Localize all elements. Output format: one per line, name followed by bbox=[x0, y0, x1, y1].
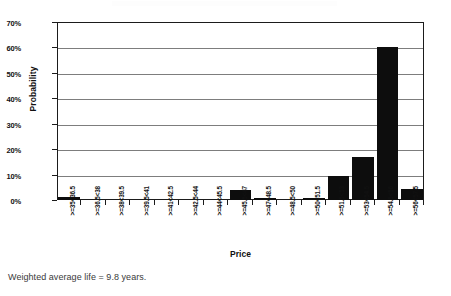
x-tick-label: >=35<36.5 bbox=[69, 184, 76, 228]
x-tick-label-cell: >=36.5<38 bbox=[81, 206, 105, 250]
x-tick-label-cell: >=56<57.5 bbox=[400, 206, 424, 250]
y-tick-label-40: 40% bbox=[0, 95, 21, 104]
x-tick-label-cell: >=39.5<41 bbox=[130, 206, 154, 250]
bar-slot bbox=[155, 22, 179, 200]
y-tick-label-0: 0% bbox=[0, 197, 21, 206]
y-tick-label-50: 50% bbox=[0, 70, 21, 79]
x-tick-label-cell: >=48.5<50 bbox=[277, 206, 301, 250]
y-tick-label-70: 70% bbox=[0, 19, 21, 28]
x-tick-label-cell: >=51.5<53 bbox=[326, 206, 350, 250]
x-tick-label-cell: >=42.5<44 bbox=[179, 206, 203, 250]
probability-distribution-figure: Probability 70% 60% 50% 40% 30% 20% 10% … bbox=[0, 0, 451, 296]
bar-slot bbox=[277, 22, 301, 200]
x-tick-label-cell: >=41<42.5 bbox=[155, 206, 179, 250]
bar-series bbox=[57, 22, 424, 200]
bar bbox=[377, 47, 399, 200]
x-axis-title: Price bbox=[57, 249, 424, 259]
x-tick-label-cell: >=38<39.5 bbox=[106, 206, 130, 250]
y-tick-label-10: 10% bbox=[0, 172, 21, 181]
bar-slot bbox=[130, 22, 154, 200]
x-tick-label-cell: >=50<51.5 bbox=[302, 206, 326, 250]
x-tick-label-cell: >=47<48.5 bbox=[253, 206, 277, 250]
x-tick-label: >=41<42.5 bbox=[167, 184, 174, 228]
x-tick-label-cell: >=54.5<56 bbox=[375, 206, 399, 250]
bar-slot bbox=[400, 22, 424, 200]
y-axis-title: Probability bbox=[28, 29, 38, 149]
x-tick-label: >=47<48.5 bbox=[265, 184, 272, 228]
bar-slot bbox=[204, 22, 228, 200]
page-edge-artifact bbox=[112, 1, 337, 6]
x-axis-labels: >=35<36.5>=36.5<38>=38<39.5>=39.5<41>=41… bbox=[57, 206, 424, 250]
bar-slot bbox=[302, 22, 326, 200]
bar-slot bbox=[326, 22, 350, 200]
x-tick-label: >=53<54.5 bbox=[363, 184, 370, 228]
x-tick-label: >=44<45.5 bbox=[216, 184, 223, 228]
x-tick-label: >=38<39.5 bbox=[118, 184, 125, 228]
x-tick-label: >=51.5<53 bbox=[338, 184, 345, 228]
x-tick-label: >=36.5<38 bbox=[94, 184, 101, 228]
x-tick-label-cell: >=44<45.5 bbox=[204, 206, 228, 250]
bar-slot bbox=[81, 22, 105, 200]
bar-slot bbox=[228, 22, 252, 200]
x-tick-label-cell: >=45.5<47 bbox=[228, 206, 252, 250]
x-tick-label: >=45.5<47 bbox=[241, 184, 248, 228]
x-tick-label-cell: >=53<54.5 bbox=[351, 206, 375, 250]
x-tick-label: >=42.5<44 bbox=[192, 184, 199, 228]
x-tick-label-cell: >=35<36.5 bbox=[57, 206, 81, 250]
figure-caption: Weighted average life = 9.8 years. bbox=[8, 272, 146, 282]
y-tick-label-30: 30% bbox=[0, 121, 21, 130]
x-tick-label: >=50<51.5 bbox=[314, 184, 321, 228]
x-tick-label: >=54.5<56 bbox=[387, 184, 394, 228]
bar-slot bbox=[57, 22, 81, 200]
bar-slot bbox=[179, 22, 203, 200]
bar-slot bbox=[253, 22, 277, 200]
bar-slot bbox=[106, 22, 130, 200]
x-tick-label: >=48.5<50 bbox=[289, 184, 296, 228]
y-tick-label-20: 20% bbox=[0, 146, 21, 155]
bar-slot bbox=[375, 22, 399, 200]
y-tick-label-60: 60% bbox=[0, 44, 21, 53]
x-tick-label: >=39.5<41 bbox=[143, 184, 150, 228]
x-tick-label: >=56<57.5 bbox=[412, 184, 419, 228]
bar-slot bbox=[351, 22, 375, 200]
